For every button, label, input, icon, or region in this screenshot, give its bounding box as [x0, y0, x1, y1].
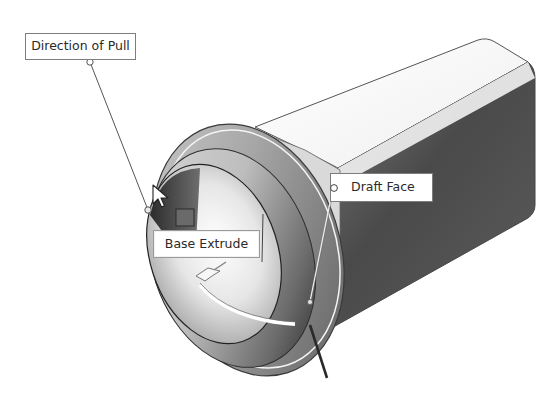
part-model[interactable]: [0, 0, 544, 406]
pull-anchor-bottom: [145, 207, 151, 213]
graphics-viewport[interactable]: Direction of Pull Draft Face Base Extrud…: [0, 0, 544, 406]
selected-face-marker: [176, 209, 194, 226]
mouse-pointer-icon: [152, 184, 170, 210]
pull-leader-line: [90, 62, 148, 210]
direction-of-pull-callout[interactable]: Direction of Pull: [25, 33, 136, 60]
callout-anchor-icon: [328, 182, 340, 194]
draft-face-callout[interactable]: Draft Face: [330, 173, 433, 202]
direction-of-pull-label: Direction of Pull: [31, 40, 130, 53]
draft-face-label: Draft Face: [351, 181, 415, 194]
base-extrude-label: Base Extrude: [165, 238, 248, 251]
base-extrude-tooltip: Base Extrude: [153, 230, 260, 258]
